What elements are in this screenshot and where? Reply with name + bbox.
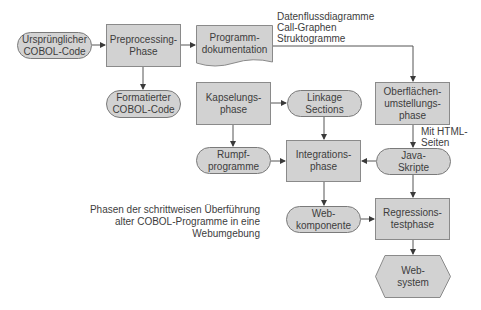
node-ui-conversion-phase: Oberflächen- umstellungs- phase [375, 82, 450, 125]
edge-label-html-pages: Mit HTML- Seiten [421, 126, 468, 148]
node-integration-phase: Integrations- phase [286, 140, 361, 182]
node-web-component: Web- komponente [286, 206, 361, 233]
node-program-documentation: Programm- dokumentation [196, 25, 273, 69]
node-encapsulation-phase: Kapselungs- phase [196, 82, 271, 125]
node-java-scripts: Java- Skripte [376, 148, 451, 175]
node-preprocessing-phase: Preprocessing- Phase [106, 24, 181, 67]
diagram-caption: Phasen der schrittweisen Überführung alt… [60, 204, 260, 240]
node-regression-test-phase: Regressions- testphase [375, 198, 450, 240]
node-web-system: Web- system [375, 255, 451, 298]
edge-label-documentation-outputs: Datenflussdiagramme Call-Graphen Strukto… [277, 11, 374, 44]
node-original-code: Ursprünglicher COBOL-Code [17, 32, 92, 59]
node-program-documentation-label: Programm- dokumentation [196, 25, 273, 63]
edge-documentation-to-ui-conversion [272, 46, 413, 81]
node-stub-programs: Rumpf- programme [196, 147, 271, 174]
node-linkage-sections: Linkage Sections [287, 90, 362, 117]
node-web-system-label: Web- system [375, 255, 451, 298]
node-formatted-code: Formatierter COBOL-Code [106, 90, 181, 118]
